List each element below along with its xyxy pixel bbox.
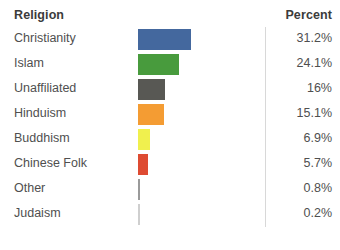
row-value-unaffiliated: 16% — [307, 81, 332, 95]
bar-track — [138, 102, 258, 127]
row-label-other: Other — [14, 181, 45, 195]
row-label-buddhism: Buddhism — [14, 131, 70, 145]
row-label-judaism: Judaism — [14, 206, 61, 220]
column-header-religion: Religion — [14, 8, 64, 22]
bar-other — [138, 179, 140, 200]
row-value-judaism: 0.2% — [304, 206, 333, 220]
bar-track — [138, 77, 258, 102]
row-label-unaffiliated: Unaffiliated — [14, 81, 76, 95]
chart-row: Islam24.1% — [0, 52, 340, 77]
chart-row: Hinduism15.1% — [0, 102, 340, 127]
bar-chinese-folk — [138, 154, 148, 175]
bar-judaism — [138, 204, 140, 225]
bar-track — [138, 27, 258, 52]
chart-row: Chinese Folk5.7% — [0, 152, 340, 177]
bar-christianity — [138, 29, 191, 50]
row-label-chinese-folk: Chinese Folk — [14, 156, 87, 170]
bar-track — [138, 52, 258, 77]
row-value-other: 0.8% — [304, 181, 333, 195]
row-value-christianity: 31.2% — [297, 31, 332, 45]
row-value-chinese-folk: 5.7% — [304, 156, 333, 170]
chart-row: Buddhism6.9% — [0, 127, 340, 152]
chart-row: Judaism0.2% — [0, 202, 340, 227]
row-label-christianity: Christianity — [14, 31, 76, 45]
bar-track — [138, 177, 258, 202]
bar-track — [138, 152, 258, 177]
chart-row: Christianity31.2% — [0, 27, 340, 52]
religion-bar-chart: Religion Percent Christianity31.2%Islam2… — [0, 0, 340, 250]
bar-track — [138, 202, 258, 227]
bar-track — [138, 127, 258, 152]
bar-unaffiliated — [138, 79, 165, 100]
chart-row: Other0.8% — [0, 177, 340, 202]
chart-row: Unaffiliated16% — [0, 77, 340, 102]
row-value-buddhism: 6.9% — [304, 131, 333, 145]
row-value-islam: 24.1% — [297, 56, 332, 70]
row-label-hinduism: Hinduism — [14, 106, 66, 120]
chart-rows: Christianity31.2%Islam24.1%Unaffiliated1… — [0, 27, 340, 227]
bar-islam — [138, 54, 179, 75]
row-label-islam: Islam — [14, 56, 44, 70]
row-value-hinduism: 15.1% — [297, 106, 332, 120]
column-header-percent: Percent — [285, 8, 332, 22]
bar-buddhism — [138, 129, 150, 150]
bar-hinduism — [138, 104, 164, 125]
table-header: Religion Percent — [0, 8, 340, 28]
